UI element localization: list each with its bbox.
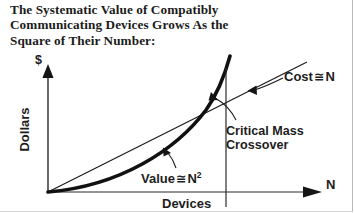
cost-label-expression: N xyxy=(325,69,334,84)
value-label-exponent: 2 xyxy=(197,170,202,180)
crossover-callout-arrow xyxy=(209,92,237,120)
cost-label-name: Cost xyxy=(284,69,313,84)
y-axis-title: Dollars xyxy=(17,100,32,160)
figure-canvas: The Systematic Value of Compatibly Commu… xyxy=(0,0,354,213)
x-axis-variable-symbol: N xyxy=(326,177,335,192)
value-series-label: Value≅N2 xyxy=(141,170,202,186)
cost-series-label: Cost≅N xyxy=(284,69,335,84)
approx-equal-icon: ≅ xyxy=(175,171,187,186)
x-axis-title: Devices xyxy=(162,196,211,211)
value-callout-arrow xyxy=(163,148,176,169)
cost-callout-arrow xyxy=(248,78,284,95)
approx-equal-icon: ≅ xyxy=(313,69,325,84)
crossover-annotation-label: Critical Mass Crossover xyxy=(226,124,304,152)
value-label-name: Value xyxy=(141,171,175,186)
crossover-label-line-2: Crossover xyxy=(226,138,304,152)
y-axis-unit-symbol: $ xyxy=(35,53,42,67)
series-value-curve xyxy=(48,56,230,192)
value-label-expression: N xyxy=(187,171,196,186)
y-axis xyxy=(42,64,53,192)
crossover-label-line-1: Critical Mass xyxy=(226,124,304,138)
